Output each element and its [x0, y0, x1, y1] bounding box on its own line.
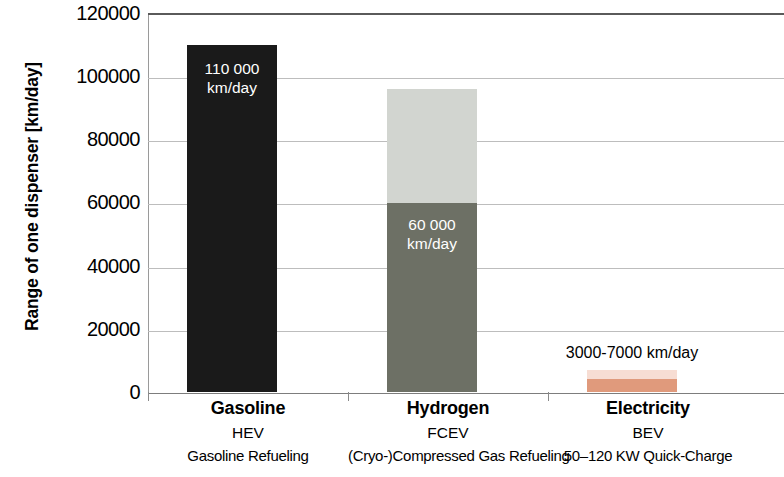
- bar-gasoline-fill: [187, 45, 277, 392]
- y-tick-20000: 20000: [87, 319, 140, 339]
- y-tick-40000: 40000: [87, 256, 140, 276]
- plot-area: 110 000 km/day 60 000 km/day 3000-7000 k…: [148, 13, 784, 392]
- bar-hydrogen-fill-lower: [387, 203, 477, 392]
- category-electricity-acronym: BEV: [548, 425, 748, 441]
- category-hydrogen-acronym: FCEV: [348, 425, 548, 441]
- category-electricity-description: 50–120 KW Quick-Charge: [548, 448, 748, 463]
- category-gasoline-description: Gasoline Refueling: [148, 448, 348, 463]
- bar-electricity-fill-upper: [587, 370, 677, 379]
- y-tick-100000: 100000: [76, 66, 140, 86]
- x-axis-line: [148, 393, 784, 394]
- category-hydrogen: Hydrogen FCEV (Cryo-)Compressed Gas Refu…: [348, 399, 548, 463]
- bar-hydrogen-fill-upper: [387, 89, 477, 203]
- category-hydrogen-name: Hydrogen: [348, 399, 548, 417]
- category-gasoline-acronym: HEV: [148, 425, 348, 441]
- bar-chart: Range of one dispenser [km/day] 120000 1…: [0, 0, 784, 477]
- bar-electricity[interactable]: [587, 370, 677, 392]
- y-axis-tick-labels: 120000 100000 80000 60000 40000 20000 0: [0, 0, 146, 477]
- category-electricity: Electricity BEV 50–120 KW Quick-Charge: [548, 399, 748, 463]
- bar-hydrogen[interactable]: 60 000 km/day: [387, 89, 477, 392]
- bar-electricity-value-label: 3000-7000 km/day: [566, 344, 699, 362]
- y-tick-0: 0: [129, 382, 140, 402]
- y-tick-60000: 60000: [87, 192, 140, 212]
- category-electricity-name: Electricity: [548, 399, 748, 417]
- category-gasoline-name: Gasoline: [148, 399, 348, 417]
- y-tick-80000: 80000: [87, 129, 140, 149]
- category-gasoline: Gasoline HEV Gasoline Refueling: [148, 399, 348, 463]
- bar-gasoline[interactable]: 110 000 km/day: [187, 45, 277, 392]
- category-hydrogen-description: (Cryo-)Compressed Gas Refueling: [348, 448, 548, 463]
- bar-electricity-fill-lower: [587, 379, 677, 392]
- y-tick-120000: 120000: [76, 3, 140, 23]
